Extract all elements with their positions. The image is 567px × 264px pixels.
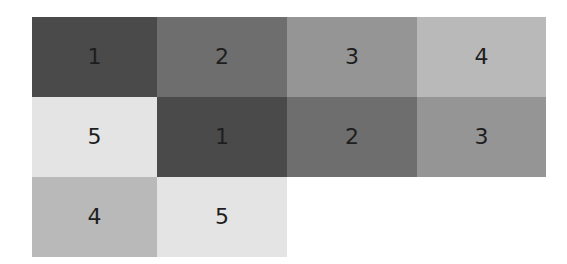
grid-cell: 4	[32, 177, 157, 257]
cell-label: 4	[475, 44, 489, 69]
grid-cell: 3	[287, 17, 417, 97]
cell-label: 2	[345, 124, 359, 149]
cell-label: 5	[88, 124, 102, 149]
grid-cell: 4	[417, 17, 546, 97]
grid-cell: 5	[157, 177, 287, 257]
tile-grid: 1 2 3 4 5 1 2 3 4 5	[32, 17, 546, 257]
grid-cell: 2	[157, 17, 287, 97]
grid-cell: 1	[157, 97, 287, 177]
cell-label: 3	[475, 124, 489, 149]
grid-cell: 3	[417, 97, 546, 177]
grid-cell: 1	[32, 17, 157, 97]
grid-cell: 5	[32, 97, 157, 177]
cell-label: 1	[88, 44, 102, 69]
grid-cell: 2	[287, 97, 417, 177]
cell-label: 5	[215, 204, 229, 229]
cell-label: 4	[88, 204, 102, 229]
cell-label: 1	[215, 124, 229, 149]
cell-label: 2	[215, 44, 229, 69]
cell-label: 3	[345, 44, 359, 69]
